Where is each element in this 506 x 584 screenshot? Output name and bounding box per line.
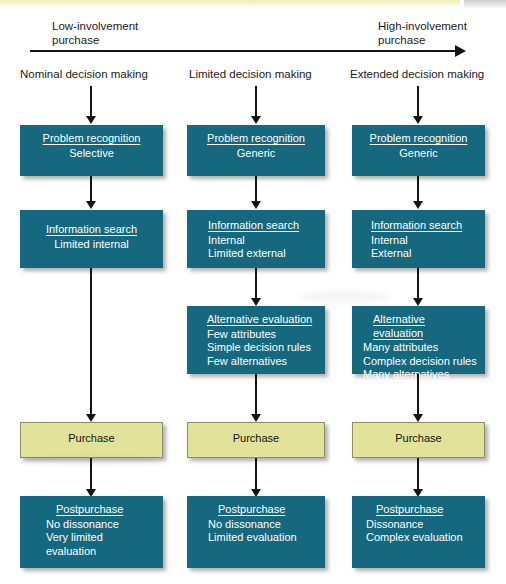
box-line: No dissonance bbox=[46, 518, 153, 532]
connector-limited-purchase-post bbox=[255, 458, 257, 492]
box-line: evaluation bbox=[46, 545, 153, 559]
connector-limited-3-purchase-arrow bbox=[251, 414, 261, 422]
connector-extended-2-3-arrow bbox=[413, 298, 423, 306]
connector-extended-3-purchase bbox=[417, 374, 419, 416]
box-limited-information-search: Information search Internal Limited exte… bbox=[187, 210, 325, 268]
box-line: Limited internal bbox=[30, 238, 153, 252]
box-line: Limited evaluation bbox=[208, 531, 315, 545]
box-line: Few attributes bbox=[207, 328, 315, 342]
box-limited-purchase: Purchase bbox=[187, 422, 325, 458]
box-line: External bbox=[371, 247, 475, 261]
box-limited-problem-recognition: Problem recognition Generic bbox=[187, 125, 325, 176]
connector-nominal-2-purchase bbox=[90, 268, 92, 416]
connector-limited-2-3 bbox=[255, 268, 257, 300]
box-limited-problem-recognition-content: Problem recognition Generic bbox=[187, 125, 325, 166]
scan-smudge bbox=[20, 455, 160, 465]
box-limited-information-search-content: Information search Internal Limited exte… bbox=[187, 210, 325, 267]
decision-making-flow-diagram: Low-involvement purchase High-involvemen… bbox=[0, 0, 506, 584]
box-extended-postpurchase-content: Postpurchase Dissonance Complex evaluati… bbox=[352, 496, 485, 551]
box-title: Problem recognition bbox=[362, 132, 475, 146]
box-line: Purchase bbox=[198, 432, 314, 446]
connector-nominal-1-2 bbox=[90, 176, 92, 202]
box-line: Complex decision rules bbox=[363, 355, 475, 369]
box-title: Information search bbox=[30, 223, 153, 237]
box-nominal-information-search-content: Information search Limited internal bbox=[20, 210, 163, 257]
connector-limited-entry bbox=[255, 86, 257, 117]
connector-limited-2-3-arrow bbox=[251, 298, 261, 306]
connector-nominal-entry bbox=[90, 86, 92, 117]
column-label-nominal: Nominal decision making bbox=[20, 68, 148, 81]
connector-nominal-2-purchase-arrow bbox=[86, 414, 96, 422]
box-nominal-purchase-content: Purchase bbox=[21, 423, 162, 452]
box-line: Internal bbox=[371, 234, 475, 248]
box-line: Very limited bbox=[46, 531, 153, 545]
page-top-strip-fade bbox=[0, 5, 506, 10]
box-line: Many attributes bbox=[363, 341, 475, 355]
involvement-axis-arrowhead bbox=[455, 45, 466, 57]
box-title: Problem recognition bbox=[197, 132, 315, 146]
box-title: Problem recognition bbox=[30, 132, 153, 146]
connector-extended-purchase-post bbox=[417, 458, 419, 492]
box-nominal-postpurchase: Postpurchase No dissonance Very limited … bbox=[20, 496, 163, 568]
involvement-axis-line bbox=[30, 50, 458, 52]
box-nominal-information-search: Information search Limited internal bbox=[20, 210, 163, 268]
connector-limited-3-purchase bbox=[255, 374, 257, 416]
column-label-limited: Limited decision making bbox=[189, 68, 312, 81]
box-limited-postpurchase: Postpurchase No dissonance Limited evalu… bbox=[187, 496, 325, 568]
scan-corner-artifact bbox=[464, 0, 506, 9]
column-label-extended: Extended decision making bbox=[350, 68, 484, 81]
connector-nominal-entry-arrow bbox=[86, 116, 96, 124]
scan-smudge bbox=[300, 290, 390, 304]
box-line: Purchase bbox=[31, 432, 152, 446]
connector-extended-entry bbox=[417, 86, 419, 117]
box-line: Dissonance bbox=[366, 518, 475, 532]
box-limited-purchase-content: Purchase bbox=[188, 423, 324, 452]
box-extended-information-search-content: Information search Internal External bbox=[352, 210, 485, 267]
connector-extended-1-2 bbox=[417, 176, 419, 202]
low-involvement-label: Low-involvement purchase bbox=[52, 20, 138, 47]
box-line: Generic bbox=[362, 147, 475, 161]
box-title: Information search bbox=[371, 219, 475, 233]
box-line: Internal bbox=[208, 234, 315, 248]
box-nominal-problem-recognition-content: Problem recognition Selective bbox=[20, 125, 163, 166]
box-line: Limited external bbox=[208, 247, 315, 261]
connector-extended-2-3 bbox=[417, 268, 419, 300]
box-nominal-problem-recognition: Problem recognition Selective bbox=[20, 125, 163, 176]
box-extended-alternative-evaluation: Alternative evaluation Many attributes C… bbox=[352, 306, 485, 374]
box-title: Alternative evaluation bbox=[207, 313, 315, 327]
box-title: Postpurchase bbox=[376, 503, 475, 517]
box-limited-postpurchase-content: Postpurchase No dissonance Limited evalu… bbox=[187, 496, 325, 551]
connector-nominal-1-2-arrow bbox=[86, 201, 96, 209]
box-line: No dissonance bbox=[208, 518, 315, 532]
connector-extended-1-2-arrow bbox=[413, 201, 423, 209]
box-line: Few alternatives bbox=[207, 355, 315, 369]
box-line: Many alternatives bbox=[363, 368, 475, 382]
box-extended-postpurchase: Postpurchase Dissonance Complex evaluati… bbox=[352, 496, 485, 568]
connector-limited-entry-arrow bbox=[251, 116, 261, 124]
connector-extended-entry-arrow bbox=[413, 116, 423, 124]
box-title: Postpurchase bbox=[218, 503, 315, 517]
box-extended-purchase-content: Purchase bbox=[353, 423, 484, 452]
high-involvement-label: High-involvement purchase bbox=[378, 20, 467, 47]
connector-limited-1-2 bbox=[255, 176, 257, 202]
box-nominal-postpurchase-content: Postpurchase No dissonance Very limited … bbox=[20, 496, 163, 564]
box-line: Purchase bbox=[363, 432, 474, 446]
box-title: Alternative evaluation bbox=[373, 313, 475, 340]
box-extended-problem-recognition-content: Problem recognition Generic bbox=[352, 125, 485, 166]
box-title: Postpurchase bbox=[56, 503, 153, 517]
connector-limited-1-2-arrow bbox=[251, 201, 261, 209]
box-extended-purchase: Purchase bbox=[352, 422, 485, 458]
box-line: Selective bbox=[30, 147, 153, 161]
box-nominal-purchase: Purchase bbox=[20, 422, 163, 458]
box-title: Information search bbox=[208, 219, 315, 233]
box-line: Simple decision rules bbox=[207, 341, 315, 355]
box-limited-alternative-evaluation: Alternative evaluation Few attributes Si… bbox=[187, 306, 325, 374]
box-extended-problem-recognition: Problem recognition Generic bbox=[352, 125, 485, 176]
box-line: Generic bbox=[197, 147, 315, 161]
box-extended-information-search: Information search Internal External bbox=[352, 210, 485, 268]
box-limited-alternative-evaluation-content: Alternative evaluation Few attributes Si… bbox=[187, 306, 325, 374]
box-line: Complex evaluation bbox=[366, 531, 475, 545]
connector-extended-3-purchase-arrow bbox=[413, 414, 423, 422]
